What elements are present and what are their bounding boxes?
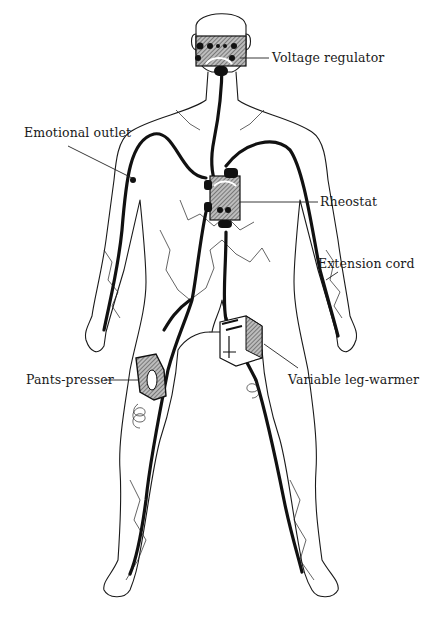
body-wiring-illustration: Voltage regulator Emotional outlet Rheos…	[0, 0, 423, 634]
label-emotional-outlet: Emotional outlet	[24, 125, 131, 140]
label-pants-presser: Pants-presser	[26, 372, 114, 387]
iron-device	[136, 354, 166, 400]
toaster-device	[220, 316, 262, 366]
figure-drawing	[0, 0, 423, 634]
label-voltage-regulator: Voltage regulator	[272, 50, 384, 65]
label-variable-leg-warmer: Variable leg-warmer	[288, 372, 419, 387]
label-rheostat: Rheostat	[320, 194, 377, 209]
voltage-regulator-device	[195, 36, 246, 76]
rheostat-device	[204, 168, 240, 228]
label-extension-cord: Extension cord	[318, 256, 415, 271]
